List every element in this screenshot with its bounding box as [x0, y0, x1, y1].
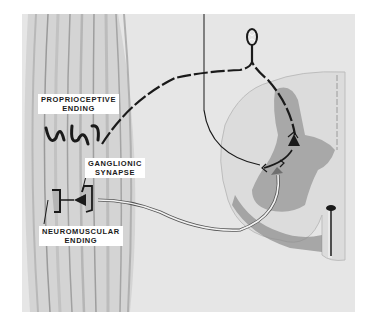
label-line: ENDING [41, 104, 116, 113]
label-line: GANGLIONIC [88, 159, 142, 168]
label-line: NEUROMUSCULAR [42, 227, 120, 236]
label-line: ENDING [42, 236, 120, 245]
proprioceptive-ending-label: PROPRIOCEPTIVE ENDING [38, 94, 119, 114]
diagram-panel: PROPRIOCEPTIVE ENDING GANGLIONIC SYNAPSE… [22, 14, 355, 312]
reflex-arc-illustration [22, 14, 355, 312]
ganglionic-synapse-label: GANGLIONIC SYNAPSE [85, 158, 145, 178]
neuromuscular-ending-label: NEUROMUSCULAR ENDING [39, 226, 123, 246]
label-line: PROPRIOCEPTIVE [41, 95, 116, 104]
dorsal-root-ganglion [247, 29, 257, 62]
label-line: SYNAPSE [88, 168, 142, 177]
